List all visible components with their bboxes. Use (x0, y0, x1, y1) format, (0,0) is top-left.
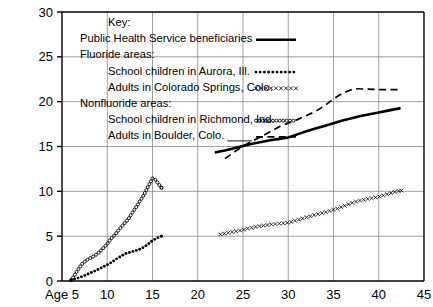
x-tick-label: 35 (326, 287, 340, 302)
series-marker-dot (125, 252, 128, 255)
series-marker-dot (83, 274, 86, 277)
series-marker-dot (96, 268, 99, 271)
legend-entry-label: School children in Richmond, Ind. (108, 113, 275, 125)
y-tick-label: 30 (39, 5, 53, 20)
legend-entry-label: Public Health Service beneficiaries (80, 32, 253, 44)
series-marker-dot (160, 235, 163, 238)
series-marker-dot (144, 244, 147, 247)
series-marker-dot (131, 250, 134, 253)
series-marker-dot (112, 259, 115, 262)
y-tick-label: 5 (46, 229, 53, 244)
series-marker-dot (141, 246, 144, 249)
x-tick-label: Age 5 (45, 287, 79, 302)
series-marker-dot (153, 238, 156, 241)
legend-entry-label: Adults in Colorado Springs, Colo. (108, 81, 273, 93)
legend-title: Key: (108, 16, 130, 28)
series-marker-dot (90, 271, 93, 274)
x-tick-label: 40 (372, 287, 386, 302)
series-marker-dot (138, 248, 141, 251)
x-tick-label: 10 (100, 287, 114, 302)
y-tick-label: 25 (39, 49, 53, 64)
line-chart: 051015202530Age 51015202530354045 Key:Pu… (0, 0, 433, 307)
series-marker-dot (87, 272, 90, 275)
x-tick-label: 30 (281, 287, 295, 302)
legend-entry-label: Nonfluoride areas: (80, 97, 171, 109)
series-marker-dot (103, 265, 106, 268)
series-marker-dot (128, 251, 131, 254)
series-marker-dot (77, 277, 80, 280)
legend-entry-label: School children in Aurora, Ill. (108, 65, 250, 77)
series-marker-dot (93, 270, 96, 273)
series-marker-dot (115, 257, 118, 260)
series-marker-dot (147, 242, 150, 245)
x-tick-label: 45 (417, 287, 431, 302)
x-tick-label: 15 (145, 287, 159, 302)
series-marker-dot (118, 256, 121, 259)
series-marker-dot (135, 249, 138, 252)
x-tick-label: 20 (191, 287, 205, 302)
legend-entry-label: Adults in Boulder, Colo. (108, 129, 224, 141)
series-marker-dot (150, 240, 153, 243)
series-marker-dot (106, 263, 109, 266)
y-tick-label: 15 (39, 139, 53, 154)
series-marker-dot (80, 275, 83, 278)
series-marker-dot (121, 254, 124, 257)
x-tick-label: 25 (236, 287, 250, 302)
y-tick-label: 10 (39, 184, 53, 199)
series-marker-dot (156, 236, 159, 239)
series-marker-dot (109, 261, 112, 264)
chart-root: 051015202530Age 51015202530354045 Key:Pu… (0, 0, 433, 307)
y-tick-label: 20 (39, 94, 53, 109)
legend-entry-label: Fluoride areas: (80, 48, 155, 60)
series-marker-dot (100, 266, 103, 269)
